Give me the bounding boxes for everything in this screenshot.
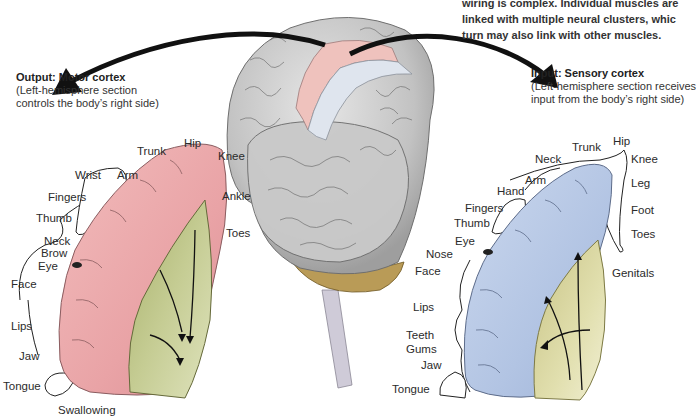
motor-label-eye: Eye [38,261,58,273]
motor-label-brow: Brow [41,248,67,260]
sensory-label-face: Face [415,266,441,278]
motor-label-neck: Neck [44,236,70,248]
sensory-label-jaw: Jaw [421,360,441,372]
sensory-cortex-subtitle-2: input from the body’s right side) [531,93,684,106]
sensory-label-lips: Lips [413,302,434,314]
sensory-label-nose: Nose [426,249,453,261]
sensory-cortex-title: Input: Sensory cortex [531,67,644,79]
sensory-label-arm: Arm [525,175,546,187]
intro-line: turn may also link with other muscles. [462,27,692,43]
motor-label-wrist: Wrist [75,170,101,182]
sensory-label-eye: Eye [455,236,475,248]
motor-label-arm: Arm [117,170,138,182]
sensory-label-neck: Neck [535,154,561,166]
motor-cortex-subtitle-1: (Left-hemisphere section [16,84,137,97]
sensory-label-toes: Toes [631,229,655,241]
sensory-label-knee: Knee [631,154,658,166]
motor-label-fingers: Fingers [48,192,86,204]
motor-label-hip: Hip [184,138,201,150]
sensory-cortex-subtitle-1: (Left-hemisphere section receives [531,80,696,93]
sensory-homunculus [440,150,627,400]
motor-label-jaw: Jaw [19,351,39,363]
motor-label-tongue: Tongue [3,381,41,393]
sensory-label-genitals: Genitals [612,268,654,280]
motor-label-toes: Toes [226,228,250,240]
motor-label-trunk: Trunk [137,146,166,158]
sensory-label-foot: Foot [631,205,654,217]
motor-label-knee: Knee [218,151,245,163]
intro-line: wiring is complex. Individual muscles ar… [462,0,692,11]
intro-text: wiring is complex. Individual muscles ar… [462,0,692,43]
intro-line: linked with multiple neural clusters, wh… [462,11,692,27]
motor-label-lips: Lips [11,321,32,333]
sensory-label-trunk: Trunk [572,142,601,154]
sensory-label-leg: Leg [631,178,650,190]
motor-cortex-title: Output: Motor cortex [16,71,125,83]
motor-label-ankle: Ankle [222,191,251,203]
sensory-label-teeth: Teeth [406,330,434,342]
sensory-label-hip: Hip [613,136,630,148]
motor-label-face: Face [11,279,37,291]
motor-cortex-subtitle-2: controls the body’s right side) [16,97,159,110]
sensory-label-gums: Gums [406,344,437,356]
sensory-label-thumb: Thumb [454,218,490,230]
sensory-label-tongue: Tongue [392,384,430,396]
sensory-label-fingers: Fingers [465,203,503,215]
sensory-label-hand: Hand [497,186,525,198]
motor-label-swallowing: Swallowing [58,405,116,416]
motor-label-thumb: Thumb [36,213,72,225]
